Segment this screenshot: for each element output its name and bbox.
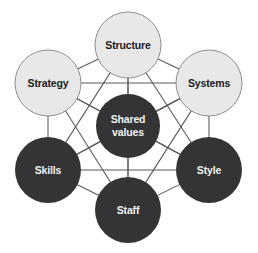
node-strategy[interactable]: Strategy xyxy=(15,50,81,116)
node-label-shared-values: values xyxy=(112,126,144,138)
node-label-staff: Staff xyxy=(117,204,140,216)
nodes-group: StructureStrategySystemsSharedvaluesSkil… xyxy=(15,12,242,243)
seven-s-framework-diagram: StructureStrategySystemsSharedvaluesSkil… xyxy=(0,0,258,253)
edge-structure-to-systems xyxy=(157,59,179,69)
edge-structure-to-strategy xyxy=(77,59,98,69)
node-staff[interactable]: Staff xyxy=(95,177,161,243)
node-label-skills: Skills xyxy=(35,164,62,176)
node-skills[interactable]: Skills xyxy=(15,137,81,203)
node-shared-values[interactable]: Sharedvalues xyxy=(96,94,160,158)
node-structure[interactable]: Structure xyxy=(95,12,161,78)
node-systems[interactable]: Systems xyxy=(176,50,242,116)
edge-shared-values-to-style xyxy=(156,141,181,154)
node-label-structure: Structure xyxy=(105,39,151,51)
node-label-shared-values: Shared xyxy=(111,113,146,125)
node-label-systems: Systems xyxy=(188,77,230,89)
node-label-style: Style xyxy=(197,164,222,176)
edge-style-to-staff xyxy=(157,184,180,195)
edge-skills-to-staff xyxy=(77,185,99,196)
node-style[interactable]: Style xyxy=(176,137,242,203)
node-label-strategy: Strategy xyxy=(28,77,69,89)
edge-shared-values-to-skills xyxy=(76,141,100,154)
diagram-canvas: StructureStrategySystemsSharedvaluesSkil… xyxy=(0,0,258,253)
